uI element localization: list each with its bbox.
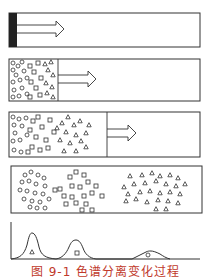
column-stage-3 bbox=[9, 112, 200, 157]
column-stage-1 bbox=[9, 13, 200, 47]
figure-caption: 图 9-1 色谱分离变化过程 bbox=[0, 262, 211, 279]
circle-zone bbox=[18, 170, 51, 210]
flow-arrow-icon bbox=[107, 125, 136, 141]
peak-square-marker bbox=[75, 251, 79, 255]
peak-circle-marker bbox=[146, 253, 150, 257]
chromatogram bbox=[11, 222, 200, 259]
sample-band bbox=[9, 13, 17, 47]
separating-band bbox=[11, 115, 91, 154]
flow-arrow-icon bbox=[58, 71, 96, 87]
flow-arrow-icon bbox=[17, 21, 64, 37]
column-stage-4 bbox=[11, 166, 202, 213]
column-stage-2 bbox=[9, 59, 200, 101]
peak-triangle-marker bbox=[30, 250, 34, 254]
square-zone bbox=[53, 170, 104, 212]
triangle-zone bbox=[122, 171, 187, 211]
mixed-band bbox=[11, 60, 55, 99]
